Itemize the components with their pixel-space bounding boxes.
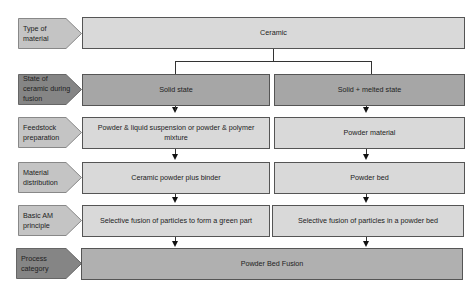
- box-text: Powder & liquid suspension or powder & p…: [86, 123, 266, 143]
- box-powder-material: Powder material: [274, 117, 465, 149]
- arrow-down-icon: [363, 241, 369, 247]
- box-text: Powder bed: [350, 173, 388, 183]
- connector-ceramic-down: [273, 49, 274, 61]
- connector-right-down: [371, 61, 372, 74]
- row-label-type-of-material: Type of material: [18, 18, 82, 49]
- connector-left-down: [175, 61, 176, 74]
- row-label-feedstock-preparation: Feedstock preparation: [18, 117, 82, 148]
- box-text: Ceramic powder plus binder: [131, 173, 221, 183]
- box-selective-fusion-powder-bed: Selective fusion of particles in a powde…: [272, 205, 464, 237]
- box-text: Ceramic: [260, 28, 287, 38]
- box-selective-fusion-green-part: Selective fusion of particles to form a …: [82, 205, 270, 237]
- box-text: Powder material: [344, 128, 396, 138]
- connector-horizontal-split: [175, 61, 372, 62]
- box-ceramic: Ceramic: [82, 17, 465, 49]
- row-label-process-category: Process category: [16, 248, 82, 279]
- arrow-down-icon: [363, 197, 369, 203]
- arrow-down-icon: [172, 154, 178, 160]
- arrow-down-icon: [172, 241, 178, 247]
- box-powder-liquid-suspension: Powder & liquid suspension or powder & p…: [82, 117, 270, 149]
- box-text: Solid state: [159, 85, 193, 95]
- row-label-material-distribution: Material distribution: [18, 162, 82, 193]
- row-label-text: Type of material: [23, 18, 49, 49]
- arrow-down-icon: [172, 197, 178, 203]
- arrow-down-icon: [363, 107, 369, 113]
- box-powder-bed-fusion: Powder Bed Fusion: [81, 248, 463, 280]
- box-ceramic-powder-plus-binder: Ceramic powder plus binder: [82, 162, 270, 194]
- box-powder-bed: Powder bed: [274, 162, 465, 194]
- box-text: Powder Bed Fusion: [241, 259, 304, 269]
- box-text: Selective fusion of particles to form a …: [100, 216, 252, 226]
- row-label-text: Feedstock preparation: [23, 117, 59, 148]
- row-label-basic-am-principle: Basic AM principle: [18, 205, 82, 236]
- arrow-down-icon: [363, 154, 369, 160]
- box-solid-melted-state: Solid + melted state: [274, 74, 465, 106]
- row-label-text: State of ceramic during fusion: [23, 73, 70, 104]
- connector-line: [175, 106, 176, 110]
- box-text: Selective fusion of particles in a powde…: [298, 216, 438, 226]
- box-solid-state: Solid state: [82, 74, 270, 106]
- row-label-text: Basic AM principle: [23, 205, 53, 236]
- row-label-text: Material distribution: [23, 162, 58, 193]
- row-label-text: Process category: [21, 248, 49, 279]
- row-label-state-of-ceramic: State of ceramic during fusion: [18, 74, 82, 105]
- box-text: Solid + melted state: [338, 85, 401, 95]
